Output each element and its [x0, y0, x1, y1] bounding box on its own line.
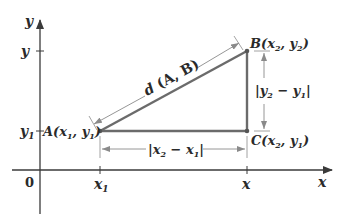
x-tick-label-x: x — [241, 176, 251, 192]
point-c-label: C(x2, y1) — [251, 133, 309, 150]
right-triangle — [98, 49, 250, 134]
horizontal-distance-label: |x2 − x1| — [148, 142, 204, 159]
x-axis-label: x — [317, 174, 327, 190]
y-tick-label-y1: y1 — [19, 123, 34, 141]
dimension-vertical: |y2 − y1| — [254, 51, 311, 131]
point-c — [245, 129, 250, 134]
point-b-label: B(x2, y2) — [249, 36, 309, 53]
y-axis-label: y — [24, 13, 34, 29]
y-tick-label-y: y — [20, 43, 30, 59]
point-a-label: A(x1, y1) — [41, 124, 101, 141]
distance-diagram: y x 0 y y1 x1 x A(x1, y1) B(x2, y2) C(x2… — [0, 0, 339, 214]
segment-ab — [100, 51, 247, 131]
dimension-horizontal: |x2 − x1| — [100, 136, 247, 159]
x-tick-label-x1: x1 — [93, 176, 109, 194]
vertical-distance-label: |y2 − y1| — [255, 83, 311, 100]
dimension-hypotenuse: d (A, B) — [89, 36, 243, 130]
point-b — [245, 49, 250, 54]
origin-label: 0 — [25, 175, 34, 190]
